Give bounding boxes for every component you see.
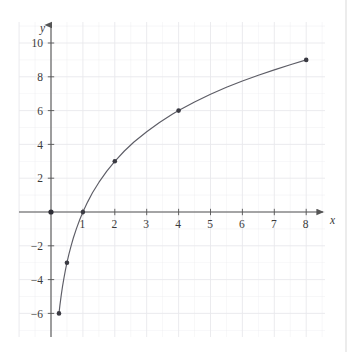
data-point xyxy=(65,260,70,265)
data-point xyxy=(81,210,86,215)
y-tick-label: 10 xyxy=(32,37,44,49)
x-tick-label: 7 xyxy=(271,218,277,230)
y-tick-label: 2 xyxy=(37,172,43,184)
y-tick-label: 4 xyxy=(37,139,43,151)
y-tick-label: −2 xyxy=(31,240,43,252)
data-point xyxy=(304,58,309,63)
graph-figure: 12345678 −6−4−2246810 x y xyxy=(0,0,347,352)
y-tick-label: −4 xyxy=(31,274,43,286)
data-point xyxy=(113,159,118,164)
data-point xyxy=(176,108,181,113)
x-axis-label: x xyxy=(329,214,336,226)
x-tick-label: 2 xyxy=(111,218,117,230)
x-tick-label: 4 xyxy=(175,218,181,230)
origin-point xyxy=(48,209,53,214)
y-tick-label: 8 xyxy=(37,71,43,83)
coordinate-plane-svg: 12345678 −6−4−2246810 x y xyxy=(0,0,347,352)
x-tick-label: 8 xyxy=(303,218,309,230)
x-tick-label: 6 xyxy=(239,218,245,230)
y-tick-label: 6 xyxy=(37,105,43,117)
x-tick-label: 3 xyxy=(143,218,149,230)
x-tick-label: 1 xyxy=(80,218,86,230)
y-axis-label: y xyxy=(39,22,46,35)
figure-background xyxy=(0,0,347,352)
y-tick-label: −6 xyxy=(31,308,43,320)
x-tick-label: 5 xyxy=(207,218,213,230)
data-point xyxy=(57,311,62,316)
